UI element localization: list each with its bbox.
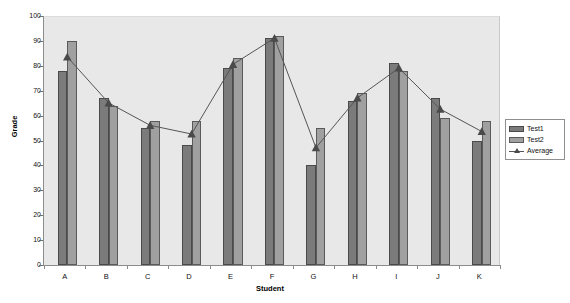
average-line-series [44,17,500,266]
average-polyline [67,38,482,148]
x-tick-label-A: A [45,272,85,281]
x-axis-title: Student [40,284,500,293]
y-tick-label: 30 [0,186,41,193]
x-tick-mark [459,265,460,269]
x-tick-mark [168,265,169,269]
y-tick-label: 60 [0,112,41,119]
x-tick-mark [251,265,252,269]
average-marker-K [478,127,486,135]
y-tick-label: 50 [0,137,41,144]
y-axis-title: Grade [10,97,19,157]
x-tick-label-B: B [86,272,126,281]
x-tick-mark [293,265,294,269]
x-tick-label-J: J [418,272,458,281]
y-tick-mark [39,41,43,42]
y-tick-mark [39,116,43,117]
legend-item-average: Average [509,145,561,156]
y-tick-mark [39,91,43,92]
y-tick-mark [39,141,43,142]
bar-line-chart: Grade 0102030405060708090100 ABCDEFGHIJK… [0,0,570,303]
y-tick-mark [39,165,43,166]
x-tick-mark [127,265,128,269]
average-marker-E [229,60,237,68]
y-tick-label: 10 [0,236,41,243]
y-tick-label: 20 [0,211,41,218]
chart-legend: Test1 Test2 Average [505,119,565,160]
y-tick-label: 80 [0,62,41,69]
average-marker-A [63,53,71,61]
x-tick-label-K: K [459,272,499,281]
x-tick-mark [376,265,377,269]
y-tick-mark [39,16,43,17]
x-tick-label-G: G [293,272,333,281]
x-tick-label-C: C [128,272,168,281]
x-tick-label-H: H [335,272,375,281]
x-tick-mark [44,265,45,269]
y-tick-mark [39,215,43,216]
legend-label-test1: Test1 [527,125,544,133]
legend-item-test2: Test2 [509,134,561,145]
average-marker-F [270,34,278,42]
x-tick-mark [500,265,501,269]
legend-label-test2: Test2 [527,136,544,144]
legend-label-average: Average [527,147,553,155]
y-tick-label: 100 [0,12,41,19]
legend-swatch-test2 [509,137,524,143]
average-marker-C [146,121,154,129]
x-tick-label-I: I [376,272,416,281]
x-tick-label-D: D [169,272,209,281]
x-tick-mark [417,265,418,269]
average-marker-I [395,64,403,72]
y-tick-label: 70 [0,87,41,94]
x-tick-mark [334,265,335,269]
y-tick-mark [39,66,43,67]
y-tick-mark [39,190,43,191]
y-tick-mark [39,265,43,266]
x-tick-label-F: F [252,272,292,281]
legend-swatch-test1 [509,126,524,132]
legend-swatch-average [509,148,524,154]
y-tick-label: 90 [0,37,41,44]
y-tick-label: 0 [0,261,41,268]
average-marker-H [353,94,361,102]
x-tick-mark [210,265,211,269]
legend-item-test1: Test1 [509,123,561,134]
x-tick-mark [85,265,86,269]
plot-area [44,16,500,265]
y-tick-mark [39,240,43,241]
x-tick-label-E: E [211,272,251,281]
y-tick-label: 40 [0,161,41,168]
